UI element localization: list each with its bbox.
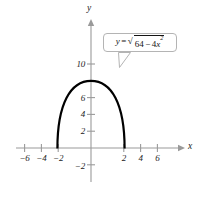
y-axis-arrow-icon [88,19,94,26]
equation-lhs: y [116,36,120,46]
y-tick-label: −2 [75,161,85,171]
x-tick-label: −2 [53,153,63,163]
x-tick-label: −4 [36,153,46,163]
y-tick-label: 10 [76,59,85,69]
x-tick-label: 6 [155,153,159,163]
equation-callout: y = √ 64−4x2 [103,33,177,52]
x-tick-label: −6 [20,153,30,163]
y-tick-label: 2 [81,126,85,136]
x-axis-label: x [188,141,192,151]
y-axis-label: y [87,3,91,13]
y-tick-label: 4 [81,109,85,119]
y-tick-label: 6 [81,93,85,103]
equation-equals-sign: = [121,36,126,46]
equation-text: y = √ 64−4x2 [116,36,165,50]
callout-pointer [119,53,131,68]
radicand-minus-sign: − [145,39,150,49]
graph-figure: −6 −4 −2 2 4 6 −2 2 4 6 10 y x y = √ 64−… [0,0,199,199]
x-tick-label: 2 [122,153,126,163]
radicand-constant: 64 [135,39,144,49]
plot-canvas [0,0,199,199]
x-tick-label: 4 [138,153,142,163]
x-axis-arrow-icon [178,145,185,151]
radical-expression: √ 64−4x2 [128,36,165,50]
radicand: 64−4x2 [134,35,165,49]
radicand-exponent: 2 [160,34,163,41]
